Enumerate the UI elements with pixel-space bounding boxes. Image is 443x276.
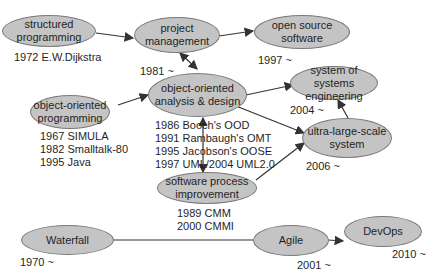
node-open-source-software: open source software bbox=[254, 15, 350, 49]
edge-structured-project bbox=[96, 33, 133, 38]
node-object-oriented-programming: object-oriented programming bbox=[30, 95, 110, 129]
note-sos: 2004 ~ bbox=[290, 104, 324, 117]
node-structured-programming: structured programming bbox=[2, 15, 96, 47]
edge-uls-sos bbox=[338, 100, 348, 118]
note-structured: 1972 E.W.Dijkstra bbox=[14, 51, 101, 64]
node-software-process-improvement: software process improvement bbox=[157, 172, 257, 204]
note-spi-2: 2000 CMMI bbox=[177, 220, 234, 233]
node-waterfall: Waterfall bbox=[21, 225, 114, 255]
note-oop-1: 1967 SIMULA bbox=[40, 130, 108, 143]
edge-project-opensource bbox=[219, 31, 253, 36]
edge-project-ooad bbox=[180, 53, 197, 69]
note-ooad-1: 1986 Booch's OOD bbox=[155, 119, 249, 132]
node-system-of-systems-engineering: system of systems engineering bbox=[290, 66, 378, 100]
edge-ooad-sos bbox=[246, 85, 293, 95]
note-oop-2: 1982 Smalltalk-80 bbox=[40, 143, 128, 156]
edge-oop-ooad bbox=[118, 95, 148, 105]
node-agile: Agile bbox=[253, 225, 329, 256]
edge-agile-devops bbox=[328, 240, 343, 241]
node-devops: DevOps bbox=[344, 216, 422, 247]
note-opensource: 1997 ~ bbox=[258, 54, 292, 67]
note-agile: 2001 ~ bbox=[297, 259, 331, 272]
note-ooad-4: 1997 UML/2004 UML2.0 bbox=[155, 158, 275, 171]
node-ultra-large-scale-system: ultra-large-scale system bbox=[302, 118, 392, 158]
note-ooad-2: 1991 Rambaugh's OMT bbox=[155, 132, 271, 145]
node-ooad: object-oriented analysis & design bbox=[148, 73, 247, 117]
note-devops: 2010 ~ bbox=[392, 248, 426, 261]
note-ooad-3: 1995 Jacobson's OOSE bbox=[155, 145, 272, 158]
note-spi-1: 1989 CMM bbox=[177, 207, 231, 220]
note-oop-3: 1995 Java bbox=[40, 156, 91, 169]
note-waterfall: 1970 ~ bbox=[20, 256, 54, 269]
node-project-management: project management bbox=[134, 17, 220, 53]
note-uls: 2006 ~ bbox=[306, 160, 340, 173]
